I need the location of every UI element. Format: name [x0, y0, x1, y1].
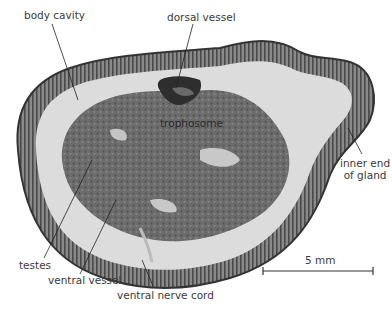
scale-bar [263, 267, 373, 275]
label-body-cavity: body cavity [24, 9, 85, 21]
label-dorsal-vessel: dorsal vessel [167, 11, 236, 23]
label-ventral-vessel: ventral vessel [48, 274, 121, 286]
micrograph-figure: body cavity dorsal vessel trophosome inn… [0, 0, 392, 312]
label-inner-end-of-gland: inner end of gland [340, 157, 390, 181]
label-testes: testes [19, 259, 51, 271]
label-trophosome: trophosome [160, 117, 223, 129]
scale-bar-label: 5 mm [305, 254, 335, 266]
label-ventral-nerve-cord: ventral nerve cord [117, 289, 214, 301]
